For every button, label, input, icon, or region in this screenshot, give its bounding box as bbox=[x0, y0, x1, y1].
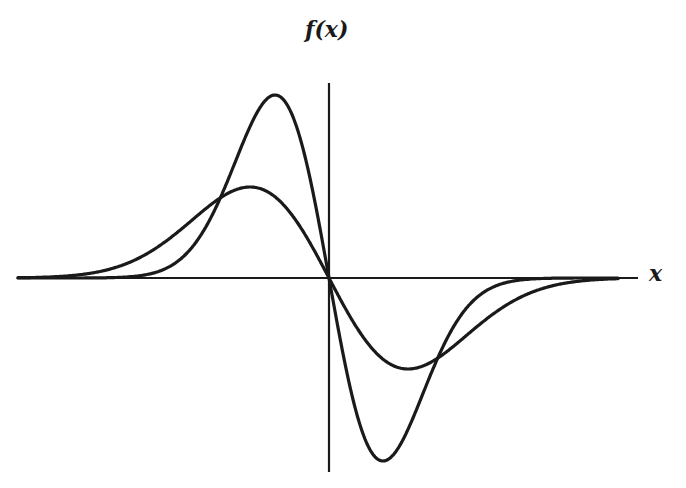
y-axis-label: f(x) bbox=[305, 18, 348, 40]
x-axis-label: x bbox=[649, 262, 662, 284]
function-plot bbox=[0, 0, 686, 488]
